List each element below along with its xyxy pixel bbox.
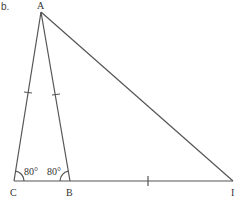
triangle-diagram: b. 80° 80° A C B I <box>0 0 237 203</box>
vertex-label-B: B <box>66 187 73 198</box>
angle-arc-B <box>60 171 68 181</box>
angle-label-B: 80° <box>47 166 61 177</box>
vertex-label-A: A <box>37 0 45 11</box>
angle-arc-C <box>16 171 24 181</box>
side-AI <box>41 12 233 181</box>
side-AC <box>14 12 41 181</box>
part-label: b. <box>1 1 9 12</box>
side-AB <box>41 12 70 181</box>
vertex-label-I: I <box>231 187 234 198</box>
tick-mark-AC <box>24 92 32 93</box>
angle-label-C: 80° <box>24 166 38 177</box>
tick-mark-AB <box>52 94 60 95</box>
vertex-label-C: C <box>10 187 17 198</box>
